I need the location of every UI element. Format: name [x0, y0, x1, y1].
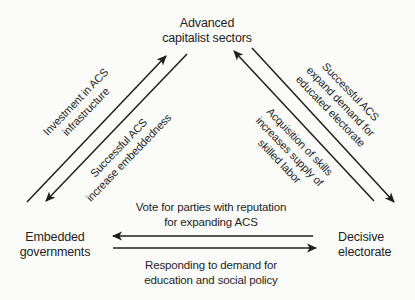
edge-label-respond: Responding to demand for education and s…: [144, 259, 278, 286]
node-advanced-capitalist-sectors: Advanced capitalist sectors: [162, 16, 252, 45]
edge-label-embeddedness-line2: increase embeddedness: [84, 111, 174, 204]
edge-label-skills-supply: Acquisition of skills increases supply o…: [244, 105, 337, 199]
edge-label-vote: Vote for parties with reputation for exp…: [136, 201, 287, 228]
node-embedded-governments: Embedded governments: [20, 230, 91, 259]
edge-label-vote-line1: Vote for parties with reputation: [136, 201, 287, 213]
triangle-relationship-diagram: Advanced capitalist sectors Embedded gov…: [0, 0, 415, 300]
diagram-canvas: Advanced capitalist sectors Embedded gov…: [0, 0, 415, 300]
node-electorate-line2: electorate: [338, 245, 392, 259]
node-acs-line1: Advanced: [180, 16, 235, 30]
edge-label-expand-demand: Successful ACS expand demand for educate…: [294, 54, 388, 149]
node-acs-line2: capitalist sectors: [162, 31, 252, 45]
node-decisive-electorate: Decisive electorate: [338, 230, 392, 259]
node-governments-line2: governments: [20, 245, 91, 259]
node-governments-line1: Embedded: [25, 230, 84, 244]
edge-label-respond-line2: education and social policy: [144, 274, 278, 286]
node-electorate-line1: Decisive: [338, 230, 384, 244]
edge-label-respond-line1: Responding to demand for: [145, 259, 277, 271]
edge-label-vote-line2: for expanding ACS: [164, 216, 258, 228]
